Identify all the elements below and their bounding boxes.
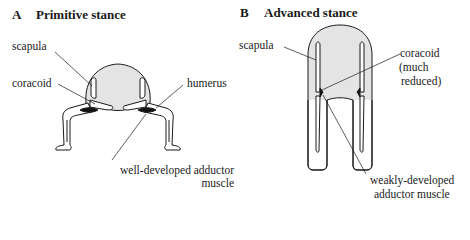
label-coracoid-a: coracoid	[12, 77, 52, 90]
humerus-b-left	[316, 96, 320, 152]
label-scapula-b: scapula	[239, 39, 273, 52]
scapula-a-left	[91, 78, 96, 99]
adductor-muscle-a-left	[80, 108, 98, 113]
humerus-b-right	[360, 96, 364, 152]
label-adductor-a-1: well-developed adductor	[102, 164, 234, 177]
label-coracoid-b-2: (much	[399, 61, 428, 74]
label-humerus-a: humerus	[187, 77, 227, 90]
label-scapula-a: scapula	[12, 40, 46, 53]
scapula-b-right	[360, 42, 364, 92]
label-adductor-b-2: adductor muscle	[374, 188, 450, 201]
primitive-stance-drawing	[55, 52, 183, 160]
adductor-muscle-a-right	[138, 108, 156, 113]
label-coracoid-b-1: coracoid	[400, 47, 440, 60]
label-coracoid-b-3: reduced)	[401, 75, 441, 88]
label-adductor-a-2: muscle	[102, 177, 234, 190]
label-adductor-b-1: weakly-developed	[370, 174, 454, 187]
advanced-stance-drawing	[284, 25, 400, 174]
scapula-a-right	[140, 78, 145, 99]
scapula-b-left	[316, 42, 320, 92]
